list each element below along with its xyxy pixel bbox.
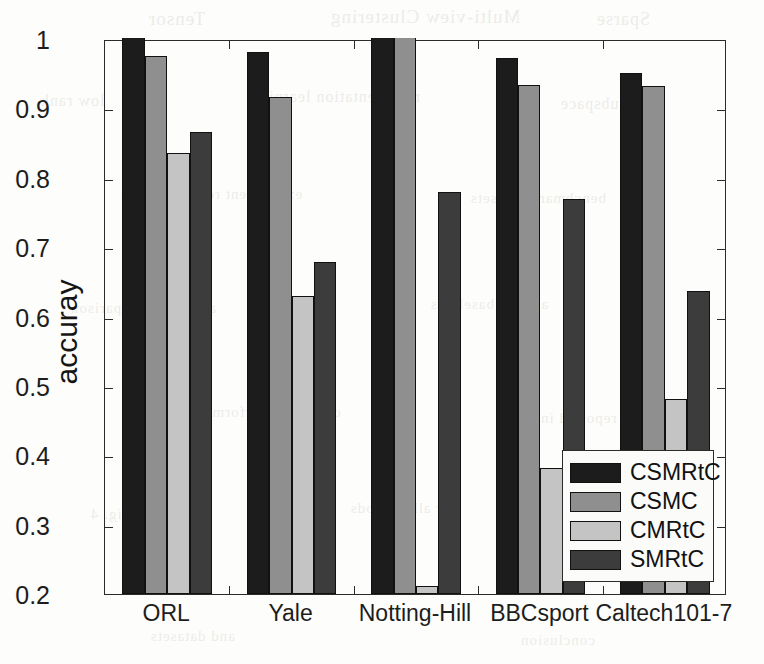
bar-csmc-bbcsport	[518, 85, 540, 594]
x-tick-label-bbcsport: BBCsport	[490, 600, 588, 627]
legend-swatch-smrtc	[570, 550, 621, 570]
bar-cmrtc-notting-hill	[416, 586, 438, 594]
y-tick-mark	[105, 457, 113, 458]
y-tick-label: 0.2	[15, 581, 50, 610]
x-tick-label-caltech101-7: Caltech101-7	[595, 600, 732, 627]
bar-csmrtc-orl	[122, 38, 144, 594]
y-tick-mark	[105, 527, 113, 528]
legend-swatch-cmrtc	[570, 521, 621, 541]
legend-label-smrtc: SMRtC	[630, 548, 704, 571]
y-tick-mark	[105, 388, 113, 389]
x-tick-mark	[354, 41, 355, 49]
y-tick-label: 0.3	[15, 511, 50, 540]
legend-row-cmrtc: CMRtC	[570, 516, 705, 545]
bar-cmrtc-orl	[167, 153, 189, 594]
bar-csmrtc-bbcsport	[496, 58, 518, 594]
y-tick-mark	[717, 249, 725, 250]
bar-csmc-notting-hill	[394, 38, 416, 594]
bar-smrtc-notting-hill	[438, 192, 460, 594]
bar-csmc-yale	[269, 97, 291, 594]
y-tick-mark	[717, 388, 725, 389]
x-tick-label-notting-hill: Notting-Hill	[359, 600, 471, 627]
chart-legend: CSMRtCCSMCCMRtCSMRtC	[562, 450, 714, 582]
y-tick-mark	[717, 319, 725, 320]
y-axis-title: accuray	[50, 279, 84, 384]
y-tick-label: 0.6	[15, 303, 50, 332]
legend-swatch-csmc	[570, 492, 621, 512]
y-tick-label: 1	[36, 26, 50, 55]
x-tick-mark	[354, 586, 355, 594]
x-tick-mark	[603, 41, 604, 49]
y-tick-label: 0.8	[15, 164, 50, 193]
x-tick-label-orl: ORL	[143, 600, 190, 627]
bar-group	[247, 41, 337, 594]
legend-label-cmrtc: CMRtC	[630, 519, 705, 542]
y-tick-label: 0.7	[15, 234, 50, 263]
y-tick-mark	[105, 319, 113, 320]
y-tick-mark	[717, 527, 725, 528]
bar-group	[122, 41, 212, 594]
y-tick-mark	[717, 180, 725, 181]
legend-row-smrtc: SMRtC	[570, 545, 705, 574]
bar-csmrtc-yale	[247, 52, 269, 594]
x-tick-mark	[478, 586, 479, 594]
y-tick-mark	[105, 180, 113, 181]
bar-smrtc-yale	[314, 262, 336, 594]
legend-swatch-csmrtc	[570, 463, 621, 483]
bar-csmrtc-notting-hill	[371, 38, 393, 594]
x-tick-mark	[478, 41, 479, 49]
x-tick-mark	[603, 586, 604, 594]
legend-label-csmrtc: CSMRtC	[630, 461, 721, 484]
x-tick-label-yale: Yale	[268, 600, 312, 627]
y-tick-label: 0.5	[15, 372, 50, 401]
y-tick-mark	[105, 249, 113, 250]
y-tick-mark	[105, 110, 113, 111]
bar-group	[371, 41, 461, 594]
x-tick-mark	[229, 586, 230, 594]
x-tick-mark	[229, 41, 230, 49]
y-tick-label: 0.9	[15, 95, 50, 124]
bar-cmrtc-yale	[292, 296, 314, 594]
bar-smrtc-orl	[190, 132, 212, 594]
y-tick-mark	[717, 110, 725, 111]
legend-label-csmc: CSMC	[630, 490, 698, 513]
bar-chart-figure: accuray 0.20.30.40.50.60.70.80.91 ORLYal…	[0, 0, 764, 664]
legend-row-csmrtc: CSMRtC	[570, 458, 705, 487]
y-tick-label: 0.4	[15, 442, 50, 471]
legend-row-csmc: CSMC	[570, 487, 705, 516]
bar-cmrtc-bbcsport	[540, 468, 562, 594]
bar-csmc-orl	[145, 56, 167, 594]
